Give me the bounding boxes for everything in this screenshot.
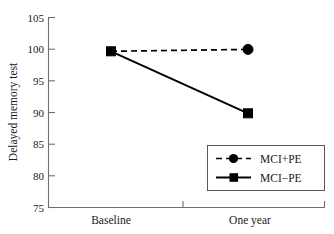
legend-label-mci-minus-pe: MCI−PE — [260, 172, 302, 184]
y-tick-label: 95 — [33, 75, 45, 87]
legend-marker-circle-icon — [229, 154, 238, 163]
y-tick-label: 85 — [33, 138, 45, 150]
y-tick-marks — [49, 18, 56, 208]
chart-legend: MCI+PE MCI−PE — [208, 146, 325, 191]
y-tick-label: 90 — [33, 107, 45, 119]
data-point-marker-mci-minus-pe-one-year — [244, 109, 253, 118]
y-tick-label: 80 — [33, 170, 45, 182]
y-tick-label: 100 — [28, 43, 45, 55]
x-category-label-one-year: One year — [229, 214, 271, 227]
line-chart: 105 100 95 90 85 80 75 Delayed memory te… — [0, 0, 334, 234]
data-point-marker-mci-plus-pe-one-year — [243, 44, 253, 54]
series-line-mci-plus-pe — [111, 49, 248, 51]
y-tick-label: 105 — [28, 12, 45, 24]
series-line-mci-minus-pe — [111, 51, 248, 113]
chart-figure: 105 100 95 90 85 80 75 Delayed memory te… — [0, 0, 334, 234]
legend-label-mci-plus-pe: MCI+PE — [260, 153, 302, 165]
data-point-marker-baseline — [107, 47, 116, 56]
y-axis-title: Delayed memory test — [7, 62, 20, 161]
y-tick-label: 75 — [33, 202, 45, 214]
legend-marker-square-icon — [230, 173, 239, 182]
x-category-label-baseline: Baseline — [91, 214, 131, 226]
